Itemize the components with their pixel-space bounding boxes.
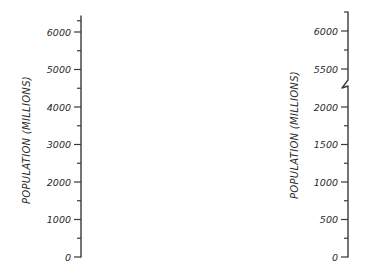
left-tick-label: 6000 [47, 27, 71, 38]
right-y-axis-title: POPULATION (MILLIONS) [289, 71, 300, 199]
left-chart: POPULATION (MILLIONS) 010002000300040005… [21, 16, 81, 263]
left-tick-label: 5000 [47, 64, 71, 75]
left-y-axis-title: POPULATION (MILLIONS) [21, 76, 32, 204]
right-tick-label: 1500 [314, 139, 338, 150]
left-tick-label: 0 [65, 252, 71, 263]
left-tick-label: 4000 [47, 102, 71, 113]
left-tick-label: 2000 [47, 177, 71, 188]
right-tick-label: 0 [332, 252, 338, 263]
chart-canvas: POPULATION (MILLIONS) 010002000300040005… [0, 0, 371, 278]
right-tick-label: 500 [320, 214, 338, 225]
left-tick-label: 1000 [47, 214, 71, 225]
right-tick-label: 5500 [314, 64, 338, 75]
right-chart: POPULATION (MILLIONS) 050010001500200055… [289, 12, 348, 263]
right-tick-label: 2000 [314, 102, 338, 113]
right-tick-label: 6000 [314, 26, 338, 37]
right-tick-label: 1000 [314, 177, 338, 188]
left-tick-label: 3000 [47, 139, 71, 150]
right-y-axis-line-with-break [342, 12, 348, 257]
